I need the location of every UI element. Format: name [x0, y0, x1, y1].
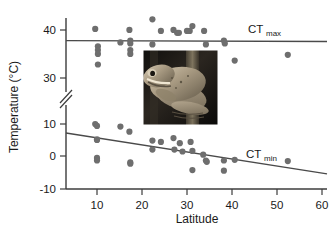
data-point	[95, 61, 101, 67]
skin-speckle	[171, 77, 173, 79]
data-point	[232, 157, 238, 163]
data-point	[171, 147, 177, 153]
y-axis	[60, 18, 72, 189]
data-point	[149, 138, 155, 144]
x-axis-label: Latitude	[176, 212, 219, 226]
y-tick-group: 40 30 10 0 -10	[39, 24, 66, 195]
data-point	[189, 23, 195, 29]
data-point	[149, 147, 155, 153]
data-point	[232, 58, 238, 64]
ct-min-subscript: min	[264, 154, 277, 163]
data-point	[221, 157, 227, 163]
data-point	[94, 157, 100, 163]
ct-max-label: CT	[248, 23, 263, 35]
y-tick-label-40: 40	[43, 24, 56, 36]
data-point	[203, 41, 209, 47]
x-tick-label-50: 50	[271, 199, 284, 211]
data-point	[117, 39, 123, 45]
data-point	[176, 30, 182, 36]
data-point	[189, 167, 195, 173]
data-point	[126, 27, 132, 33]
data-point	[201, 28, 207, 34]
data-point	[127, 51, 133, 57]
data-point	[158, 139, 164, 145]
data-point	[126, 129, 132, 135]
y-tick-label-0: 0	[50, 150, 56, 162]
ct-min-annotation: CT min	[246, 148, 277, 163]
data-point	[188, 139, 194, 145]
y-tick-label-neg10: -10	[39, 183, 56, 195]
x-tick-label-30: 30	[181, 199, 194, 211]
x-tick-label-10: 10	[91, 199, 104, 211]
data-point	[222, 40, 228, 46]
skin-speckle	[175, 87, 177, 89]
data-point	[170, 135, 176, 141]
ct-min-fit-line	[66, 133, 327, 174]
data-point	[127, 161, 133, 167]
data-point	[285, 52, 291, 58]
ct-max-subscript: max	[266, 29, 281, 38]
data-point	[179, 148, 185, 154]
data-point	[200, 152, 206, 158]
frog-photo-inset	[141, 50, 218, 125]
frog-pupil	[150, 71, 155, 76]
skin-speckle	[180, 81, 182, 83]
x-tick-label-40: 40	[226, 199, 239, 211]
data-point	[95, 51, 101, 57]
data-point	[92, 26, 98, 32]
data-point	[94, 123, 100, 129]
y-tick-label-10: 10	[43, 118, 56, 130]
ct-min-label: CT	[246, 148, 261, 160]
data-point	[221, 168, 227, 174]
data-point	[127, 40, 133, 46]
data-point	[158, 28, 164, 34]
data-point	[177, 140, 183, 146]
data-point	[149, 16, 155, 22]
y-axis-label: Temperature (°C)	[7, 61, 21, 153]
data-point	[117, 124, 123, 130]
data-point	[189, 148, 195, 154]
ct-max-annotation: CT max	[248, 23, 281, 38]
data-point	[94, 137, 100, 143]
data-point	[285, 158, 291, 164]
figure-panel: 40 30 10 0 -10 10 20 30 40 50 60 Latitu	[0, 0, 334, 226]
x-tick-group: 10 20 30 40 50 60	[91, 189, 329, 211]
scatter-chart: 40 30 10 0 -10 10 20 30 40 50 60 Latitu	[0, 0, 334, 226]
ct-max-fit-line	[66, 41, 327, 42]
x-tick-label-60: 60	[316, 199, 329, 211]
data-point	[204, 159, 210, 165]
x-tick-label-20: 20	[136, 199, 149, 211]
data-point	[149, 41, 155, 47]
y-tick-label-30: 30	[43, 72, 56, 84]
skin-speckle	[187, 75, 189, 77]
